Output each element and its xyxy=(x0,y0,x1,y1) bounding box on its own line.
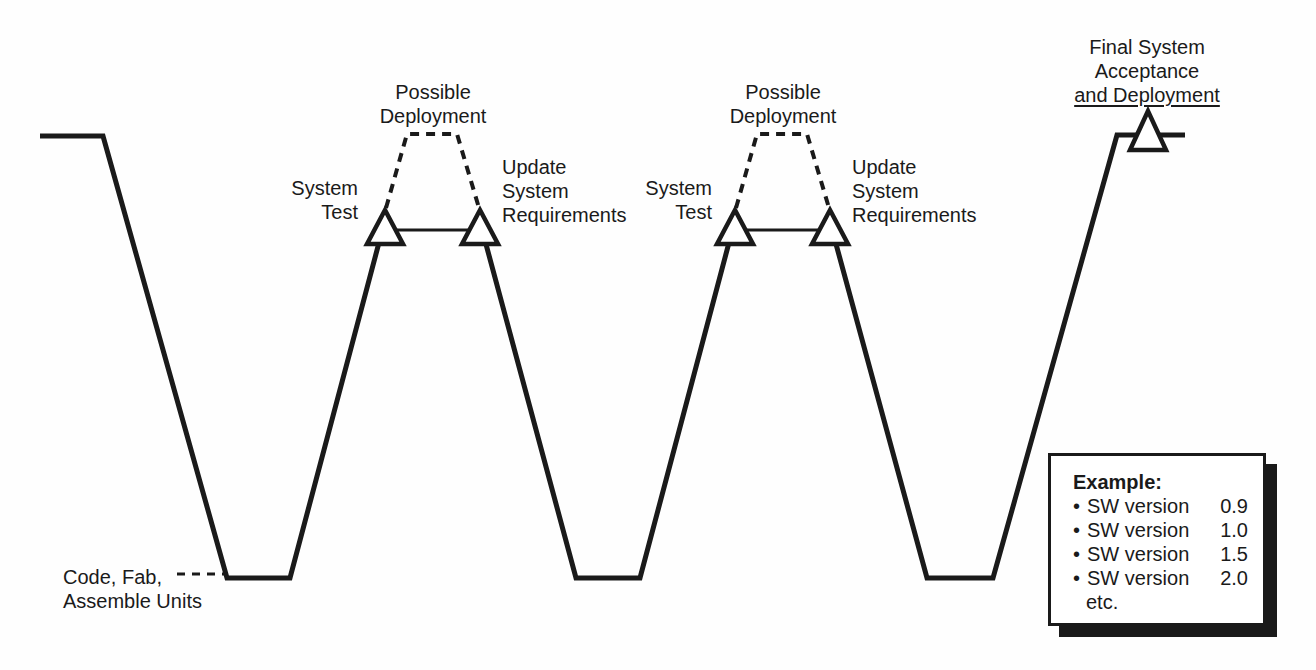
legend-item-row: •SW version 2.0 xyxy=(1073,566,1248,590)
code-fab-assemble-label: Code, Fab, Assemble Units xyxy=(63,565,202,613)
bullet-icon: • xyxy=(1073,518,1080,542)
possible-deployment-label-1: Possible Deployment xyxy=(380,80,487,128)
legend-item-label: SW version xyxy=(1087,567,1189,589)
process-line-segment-2 xyxy=(480,220,735,578)
milestone-triangle-system-test-1 xyxy=(367,210,403,244)
legend-item-value: 1.0 xyxy=(1220,518,1248,542)
legend-item-value: 1.5 xyxy=(1220,542,1248,566)
update-requirements-label-2: Update System Requirements xyxy=(852,155,977,227)
legend-item-value: 2.0 xyxy=(1220,566,1248,590)
final-acceptance-underlined-line: and Deployment xyxy=(1074,83,1220,107)
bullet-icon: • xyxy=(1073,542,1080,566)
system-test-label-2: System Test xyxy=(645,176,712,224)
code-fab-line-1: Code, Fab, xyxy=(63,565,202,589)
bullet-icon: • xyxy=(1073,566,1080,590)
system-test-label-1: System Test xyxy=(291,176,358,224)
legend-footer: etc. xyxy=(1086,590,1248,614)
update-requirements-label-1: Update System Requirements xyxy=(502,155,627,227)
possible-deployment-label-2: Possible Deployment xyxy=(730,80,837,128)
legend-title: Example: xyxy=(1073,470,1248,494)
possible-deployment-path-2 xyxy=(736,134,829,208)
possible-deployment-path-1 xyxy=(386,134,479,208)
milestone-triangle-system-test-2 xyxy=(717,210,753,244)
milestone-triangle-update-requirements-2 xyxy=(812,210,848,244)
code-fab-line-2: Assemble Units xyxy=(63,589,202,613)
example-legend-box: Example: •SW version 0.9 •SW version 1.0… xyxy=(1048,453,1266,626)
legend-item-label: SW version xyxy=(1087,519,1189,541)
legend-item-value: 0.9 xyxy=(1220,494,1248,518)
legend-item-row: •SW version 0.9 xyxy=(1073,494,1248,518)
final-acceptance-label: Final System Acceptance and Deployment xyxy=(1074,35,1220,107)
legend-item-row: •SW version 1.5 xyxy=(1073,542,1248,566)
legend-item-label: SW version xyxy=(1087,495,1189,517)
sawtooth-process-diagram: Code, Fab, Assemble Units System Test Po… xyxy=(0,0,1316,670)
final-acceptance-triangle xyxy=(1130,111,1166,150)
legend-item-row: •SW version 1.0 xyxy=(1073,518,1248,542)
legend-item-label: SW version xyxy=(1087,543,1189,565)
milestone-triangle-update-requirements-1 xyxy=(462,210,498,244)
bullet-icon: • xyxy=(1073,494,1080,518)
